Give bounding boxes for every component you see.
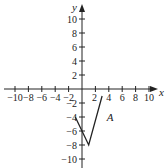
x-tick-label: 2 [92, 92, 97, 103]
x-tick-label: −8 [23, 92, 34, 103]
y-tick-label: −8 [66, 140, 77, 151]
annotation-label: A [106, 111, 114, 123]
x-tick-label: 10 [144, 92, 154, 103]
y-tick-label: 10 [67, 14, 77, 25]
y-tick-label: −2 [66, 98, 77, 109]
y-tick-label: 8 [72, 28, 77, 39]
axes: xy [4, 1, 164, 168]
y-tick-label: 6 [72, 42, 77, 53]
y-tick-label: 4 [72, 56, 77, 67]
annotations: A [106, 111, 114, 123]
y-axis-arrow-icon [79, 4, 85, 12]
x-tick-label: 4 [106, 92, 111, 103]
y-tick-label: −6 [66, 126, 77, 137]
y-tick-label: −10 [61, 154, 77, 165]
x-tick-label: −6 [36, 92, 47, 103]
coordinate-plane: xy −10−8−6−4−2246810108642−2−4−6−8−10 A [0, 0, 167, 168]
x-tick-label: 6 [120, 92, 125, 103]
y-tick-label: 2 [72, 70, 77, 81]
x-axis-label: x [158, 86, 164, 98]
x-tick-label: −10 [7, 92, 23, 103]
x-tick-label: 8 [133, 92, 138, 103]
y-axis-label: y [71, 1, 77, 13]
x-tick-label: −4 [50, 92, 61, 103]
